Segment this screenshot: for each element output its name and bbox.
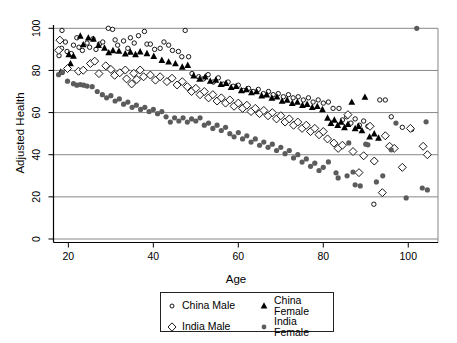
y-tick-label: 60 <box>30 107 42 119</box>
point-india-female <box>425 187 430 192</box>
point-china-male <box>85 41 89 45</box>
y-tick-label: 20 <box>30 191 42 203</box>
point-china-female <box>362 93 369 99</box>
point-india-female <box>265 145 270 150</box>
point-india-female <box>333 170 338 175</box>
point-china-male <box>331 106 335 110</box>
point-india-male <box>360 152 368 160</box>
point-china-male <box>166 43 170 47</box>
point-china-male <box>110 27 114 31</box>
point-china-male <box>101 40 105 44</box>
point-india-female <box>282 151 287 156</box>
legend-label: India Male <box>182 321 230 332</box>
point-china-male <box>301 98 305 102</box>
legend-item-china-female: China Female <box>258 295 333 316</box>
point-china-male <box>176 49 180 53</box>
y-tick-label: 100 <box>30 19 42 37</box>
point-india-female <box>316 168 321 173</box>
point-india-female <box>344 173 349 178</box>
y-tick-label: 0 <box>30 236 42 242</box>
legend-label: China Male <box>182 300 235 311</box>
point-india-female <box>321 165 326 170</box>
point-china-male <box>353 117 357 121</box>
point-india-male <box>324 135 332 143</box>
point-india-female <box>304 156 309 161</box>
point-china-male <box>296 95 300 99</box>
point-india-female <box>176 118 181 123</box>
point-china-female <box>144 50 151 56</box>
point-india-female <box>380 173 385 178</box>
point-china-female <box>110 47 117 53</box>
point-india-male <box>366 122 374 130</box>
point-india-female <box>299 159 304 164</box>
x-tick-label: 80 <box>317 250 329 262</box>
point-china-male <box>311 100 315 104</box>
point-india-female <box>353 182 358 187</box>
point-india-female <box>424 119 429 124</box>
point-china-male <box>321 101 325 105</box>
point-india-male <box>423 151 431 159</box>
point-china-female <box>165 58 172 64</box>
open-diamond-icon <box>166 321 178 333</box>
point-india-female <box>240 136 245 141</box>
y-tick-label: 80 <box>30 64 42 76</box>
scatter-plot-figure: 02040608010020406080100 Adjusted Health … <box>0 0 457 343</box>
point-china-female <box>101 44 108 50</box>
point-china-male <box>361 119 365 123</box>
point-india-female <box>151 107 156 112</box>
legend-label: India Female <box>274 316 333 337</box>
point-india-female <box>159 109 164 114</box>
filled-circle-icon <box>258 321 270 333</box>
point-india-male <box>381 132 389 140</box>
point-india-female <box>84 83 89 88</box>
point-china-male <box>286 92 290 96</box>
point-india-male <box>56 36 64 44</box>
point-china-male <box>158 46 162 50</box>
point-china-female <box>331 116 338 122</box>
point-india-female <box>374 179 379 184</box>
point-china-male <box>186 55 190 59</box>
point-china-male <box>80 48 84 52</box>
point-india-female <box>278 145 283 150</box>
point-china-male <box>87 45 91 49</box>
point-india-female <box>223 125 228 130</box>
point-india-female <box>134 103 139 108</box>
point-india-female <box>65 79 70 84</box>
point-china-male <box>113 38 117 42</box>
point-china-female <box>348 98 355 104</box>
point-china-male <box>372 202 376 206</box>
point-india-female <box>336 175 341 180</box>
point-china-female <box>179 63 186 69</box>
point-india-female <box>108 93 113 98</box>
point-china-male <box>115 43 119 47</box>
point-india-female <box>117 96 122 101</box>
point-india-female <box>244 133 249 138</box>
point-india-female <box>358 183 363 188</box>
point-china-male <box>132 41 136 45</box>
point-india-male <box>378 189 386 197</box>
x-axis-title: Age <box>226 273 246 285</box>
point-china-female <box>150 53 157 59</box>
point-india-female <box>206 121 211 126</box>
point-china-male <box>383 98 387 102</box>
point-india-female <box>295 152 300 157</box>
point-india-female <box>420 185 425 190</box>
legend-item-india-female: India Female <box>258 316 333 337</box>
point-china-female <box>116 47 123 53</box>
point-india-female <box>312 161 317 166</box>
point-china-male <box>170 48 174 52</box>
point-india-female <box>214 123 219 128</box>
point-india-female <box>100 92 105 97</box>
point-china-female <box>371 130 378 136</box>
point-india-female <box>210 126 215 131</box>
point-india-female <box>346 140 351 145</box>
point-india-female <box>287 148 292 153</box>
point-india-female <box>185 119 190 124</box>
point-china-male <box>126 46 130 50</box>
point-china-male <box>378 98 382 102</box>
point-china-male <box>148 42 152 46</box>
point-china-female <box>184 62 191 68</box>
point-china-male <box>183 28 187 32</box>
point-india-female <box>227 131 232 136</box>
point-india-female <box>257 143 262 148</box>
